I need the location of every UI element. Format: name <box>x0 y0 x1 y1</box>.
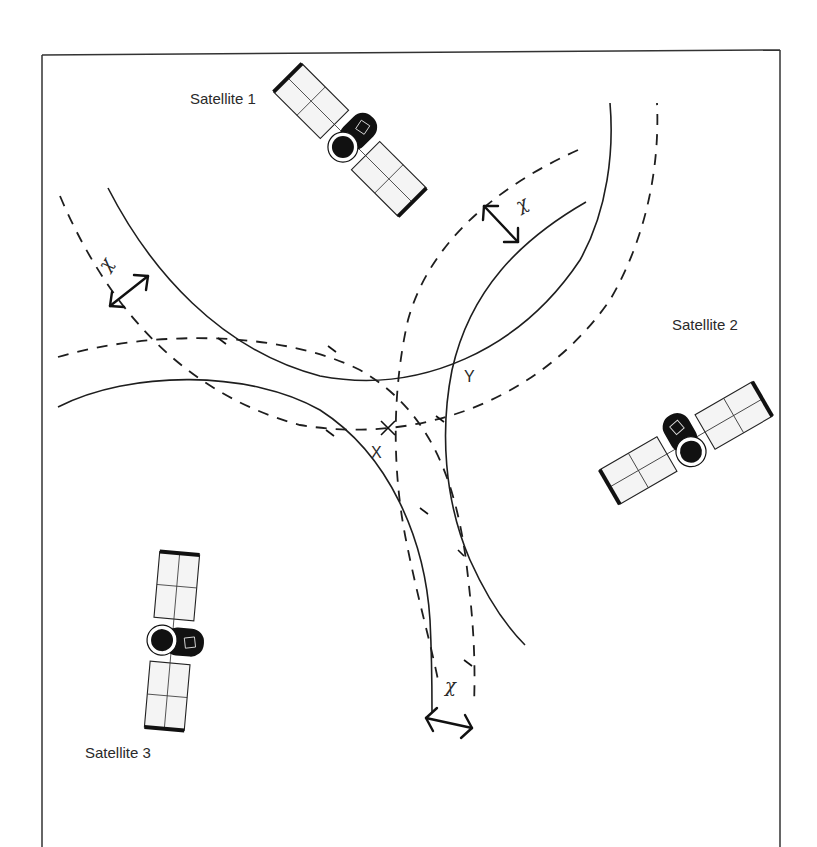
chi-label-satellite-1: χ <box>92 253 117 276</box>
chi-arrow-satellite-3 <box>426 708 472 738</box>
satellite-1-icon <box>270 55 435 220</box>
chi-label-satellite-3: χ <box>443 675 457 696</box>
satellite-2-range-outer <box>396 150 578 680</box>
satellite-2-range-inner <box>446 202 586 645</box>
satellite-3-icon <box>139 551 211 731</box>
point-x-label: X <box>371 444 382 461</box>
satellite-3-ranges <box>58 338 475 712</box>
satellite-3-label: Satellite 3 <box>85 744 151 761</box>
satellite-1-label: Satellite 1 <box>190 90 256 107</box>
point-y-label: Y <box>464 368 475 385</box>
satellite-2-ranges <box>396 150 586 680</box>
satellite-2-label: Satellite 2 <box>672 316 738 333</box>
chi-arrow-satellite-2 <box>483 206 518 242</box>
satellite-1-ranges <box>60 103 657 430</box>
chi-label-satellite-2: χ <box>510 191 533 216</box>
satellite-2-icon <box>594 371 775 508</box>
satellite-3-range-outer <box>58 338 475 705</box>
chi-arrow-satellite-1 <box>110 275 148 307</box>
satellite-diagram: X Y χ χ χ Satellite 1 Satellite 2 Satell… <box>0 0 817 847</box>
frame-top-border <box>42 50 780 55</box>
